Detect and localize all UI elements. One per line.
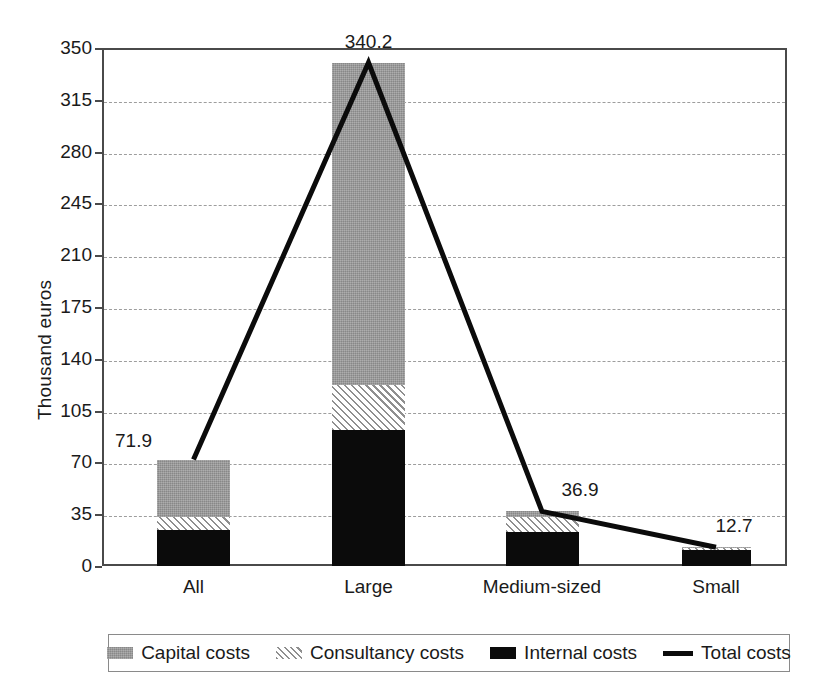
y-tick-label: 105 bbox=[0, 400, 92, 422]
bar-segment-capital bbox=[682, 547, 751, 548]
y-tick-label: 210 bbox=[0, 244, 92, 266]
y-tick-label: 140 bbox=[0, 348, 92, 370]
y-tick-label: 280 bbox=[0, 141, 92, 163]
bar-segment-consultancy bbox=[506, 517, 579, 532]
bar-segment-capital bbox=[506, 511, 579, 517]
legend-label: Capital costs bbox=[141, 642, 250, 664]
legend-item-internal-costs[interactable]: Internal costs bbox=[490, 642, 637, 664]
data-label-large: 340.2 bbox=[309, 31, 429, 53]
bar-small bbox=[682, 48, 751, 566]
y-tick-mark bbox=[95, 514, 102, 516]
black-square-swatch bbox=[490, 647, 516, 659]
bar-segment-consultancy bbox=[332, 385, 405, 429]
bar-segment-internal bbox=[332, 430, 405, 566]
legend-item-consultancy-costs[interactable]: Consultancy costs bbox=[276, 642, 464, 664]
y-tick-label: 350 bbox=[0, 37, 92, 59]
bar-large bbox=[332, 48, 405, 566]
data-label-medium-sized: 36.9 bbox=[520, 479, 640, 501]
bar-segment-consultancy bbox=[682, 548, 751, 550]
y-tick-label: 315 bbox=[0, 89, 92, 111]
y-tick-mark bbox=[95, 152, 102, 154]
data-label-all: 71.9 bbox=[74, 430, 194, 452]
y-tick-mark bbox=[95, 100, 102, 102]
hatched-square-swatch bbox=[276, 647, 302, 659]
y-tick-mark bbox=[95, 411, 102, 413]
y-tick-mark bbox=[95, 359, 102, 361]
bar-segment-capital bbox=[157, 460, 230, 518]
y-tick-mark bbox=[95, 203, 102, 205]
gray-square-swatch bbox=[107, 647, 133, 659]
y-tick-mark bbox=[95, 48, 102, 50]
legend-item-total-costs[interactable]: Total costs bbox=[663, 642, 791, 664]
y-tick-mark bbox=[95, 255, 102, 257]
y-tick-label: 0 bbox=[0, 555, 92, 577]
stacked-bar-chart: Thousand euros 0357010514017521024528031… bbox=[0, 0, 820, 684]
y-tick-mark bbox=[95, 462, 102, 464]
legend-label: Consultancy costs bbox=[310, 642, 464, 664]
line-swatch bbox=[663, 651, 693, 656]
bar-segment-internal bbox=[682, 550, 751, 566]
chart-legend: Capital costsConsultancy costsInternal c… bbox=[108, 634, 790, 672]
bar-segment-internal bbox=[506, 532, 579, 566]
bar-segment-internal bbox=[157, 530, 230, 566]
legend-label: Total costs bbox=[701, 642, 791, 664]
bar-segment-capital bbox=[332, 63, 405, 386]
y-tick-label: 175 bbox=[0, 296, 92, 318]
bar-all bbox=[157, 48, 230, 566]
x-category-label: Small bbox=[606, 576, 820, 598]
data-label-small: 12.7 bbox=[674, 515, 794, 537]
y-tick-mark bbox=[95, 566, 102, 568]
y-tick-label: 70 bbox=[0, 451, 92, 473]
y-tick-label: 35 bbox=[0, 503, 92, 525]
legend-item-capital-costs[interactable]: Capital costs bbox=[107, 642, 250, 664]
y-tick-label: 245 bbox=[0, 192, 92, 214]
y-tick-mark bbox=[95, 307, 102, 309]
legend-label: Internal costs bbox=[524, 642, 637, 664]
bar-segment-consultancy bbox=[157, 517, 230, 530]
